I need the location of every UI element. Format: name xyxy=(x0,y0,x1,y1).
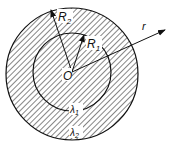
concentric-circles-diagram: R2 R1 O r λ1 λ2 xyxy=(0,0,177,147)
label-origin: O xyxy=(63,69,72,83)
